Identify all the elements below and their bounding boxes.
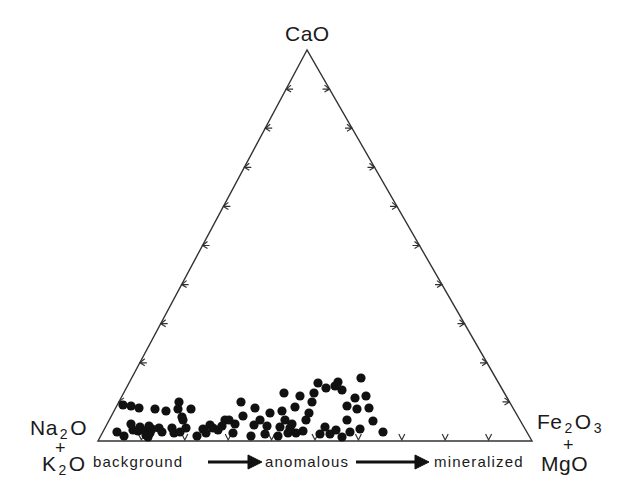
fe-text: Fe [537, 410, 563, 433]
data-point [134, 403, 143, 412]
data-point [350, 393, 359, 402]
data-point [320, 422, 329, 431]
tick-marks [119, 85, 510, 440]
na-text: Na [30, 416, 58, 439]
tick-icon [486, 434, 492, 440]
fe-o-text: O [575, 410, 592, 433]
tick-icon [442, 434, 448, 440]
data-point [337, 432, 346, 441]
data-point [337, 385, 346, 394]
data-point [333, 377, 342, 386]
data-point [262, 421, 271, 430]
vertex-label-mgo: MgO [541, 452, 588, 476]
tick-icon [355, 434, 361, 440]
data-point [192, 431, 201, 440]
data-point [304, 408, 313, 417]
data-point [118, 400, 127, 409]
fe-o-subscript: 3 [594, 420, 602, 436]
k-subscript: 2 [59, 462, 67, 478]
data-point [277, 406, 286, 415]
data-point [309, 388, 318, 397]
na-o-text: O [70, 416, 87, 439]
data-point [295, 391, 304, 400]
data-point [321, 383, 330, 392]
k-text: K [42, 452, 57, 475]
data-point [313, 378, 322, 387]
data-point [298, 426, 307, 435]
k-o-text: O [69, 452, 86, 475]
data-point [260, 429, 269, 438]
stage-label-background: background [93, 453, 183, 470]
stage-label-mineralized: mineralized [434, 453, 524, 470]
data-point [307, 397, 316, 406]
arrowhead-2 [415, 455, 429, 469]
data-point [364, 403, 373, 412]
data-point [342, 415, 351, 424]
data-point [161, 406, 170, 415]
data-point [287, 419, 296, 428]
fe-subscript: 2 [565, 420, 573, 436]
data-point [342, 401, 351, 410]
data-point [157, 427, 166, 436]
arrowhead-1 [248, 455, 262, 469]
data-point [150, 404, 159, 413]
data-point [186, 404, 195, 413]
data-point [356, 373, 365, 382]
stage-label-anomalous: anomalous [265, 453, 349, 470]
data-point [255, 415, 264, 424]
data-point [173, 404, 182, 413]
data-point [230, 419, 239, 428]
vertex-label-k2o: K2O [42, 452, 86, 478]
data-point [126, 401, 135, 410]
data-point [378, 427, 387, 436]
data-point [355, 424, 364, 433]
data-point [265, 408, 274, 417]
data-point [368, 416, 377, 425]
data-point [181, 423, 190, 432]
data-points [112, 373, 387, 441]
data-point [144, 421, 153, 430]
data-point [361, 391, 370, 400]
data-point [246, 431, 255, 440]
tick-icon [399, 434, 405, 440]
data-point [119, 431, 128, 440]
vertex-label-fe2o3: Fe2O3 [537, 410, 604, 436]
data-point [352, 404, 361, 413]
data-point [250, 403, 259, 412]
data-point [273, 431, 282, 440]
data-point [345, 427, 354, 436]
data-point [178, 415, 187, 424]
data-point [236, 397, 245, 406]
vertex-label-cao: CaO [285, 22, 330, 46]
data-point [290, 402, 299, 411]
data-point [238, 411, 247, 420]
data-point [279, 388, 288, 397]
data-point [228, 428, 237, 437]
